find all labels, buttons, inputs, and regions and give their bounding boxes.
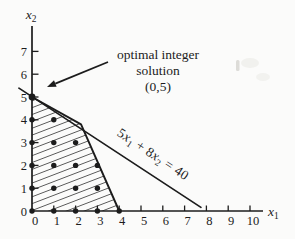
- integer-point: [51, 163, 56, 168]
- integer-point: [73, 163, 78, 168]
- integer-point: [51, 140, 56, 145]
- integer-point: [73, 208, 78, 213]
- integer-point: [73, 140, 78, 145]
- x-tick-label: 5: [141, 214, 147, 228]
- integer-point: [29, 117, 34, 122]
- y-tick-label: 7: [21, 45, 27, 59]
- x-tick-label: 4: [119, 214, 126, 228]
- integer-programming-figure: 01234567012345678910x2x15x1 + 8x2 = 40 o…: [0, 0, 295, 239]
- x-tick-label: 2: [75, 214, 81, 228]
- y-tick-label: 4: [21, 113, 28, 127]
- plot-canvas: 01234567012345678910x2x15x1 + 8x2 = 40: [0, 0, 295, 239]
- integer-point: [95, 163, 100, 168]
- x-tick-label: 7: [184, 214, 190, 228]
- annotation-line-1: optimal integer: [117, 47, 199, 63]
- optimal-integer-point: [29, 94, 36, 101]
- integer-point: [51, 117, 56, 122]
- x-tick-label: 9: [228, 214, 234, 228]
- x-tick-label: 10: [247, 214, 260, 228]
- annotation-line-2: solution: [117, 63, 199, 79]
- optimal-solution-annotation: optimal integer solution (0,5): [117, 47, 199, 95]
- x-tick-label: 0: [32, 214, 38, 228]
- integer-point: [29, 208, 34, 213]
- integer-point: [29, 186, 34, 191]
- y-tick-label: 6: [21, 68, 27, 82]
- y-tick-label: 0: [21, 205, 27, 219]
- x-tick-label: 3: [97, 214, 103, 228]
- integer-point: [73, 186, 78, 191]
- integer-point: [51, 208, 56, 213]
- y-tick-label: 2: [21, 159, 27, 173]
- annotation-line-3: (0,5): [117, 79, 199, 95]
- x-tick-label: 1: [54, 214, 60, 228]
- y-tick-label: 1: [21, 182, 27, 196]
- integer-point: [51, 186, 56, 191]
- integer-point: [95, 186, 100, 191]
- integer-point: [95, 208, 100, 213]
- x-tick-label: 6: [163, 214, 169, 228]
- integer-point: [117, 208, 122, 213]
- x-tick-label: 8: [206, 214, 212, 228]
- y-tick-label: 3: [21, 136, 27, 150]
- integer-point: [29, 140, 34, 145]
- integer-point: [29, 163, 34, 168]
